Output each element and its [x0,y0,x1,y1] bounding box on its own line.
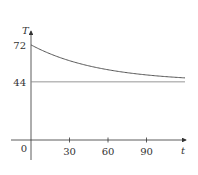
chart: T 72 44 0 30 60 90 t [0,0,198,175]
y-axis-label: T [22,25,30,36]
x-axis-label: t [181,145,186,156]
y-tick-label-44: 44 [13,77,26,88]
x-tick-label-30: 30 [63,146,76,157]
x-tick-label-60: 60 [102,146,115,157]
x-tick-label-90: 90 [140,146,153,157]
origin-label: 0 [21,143,27,154]
y-tick-label-72: 72 [13,40,26,51]
decay-curve [31,45,185,78]
